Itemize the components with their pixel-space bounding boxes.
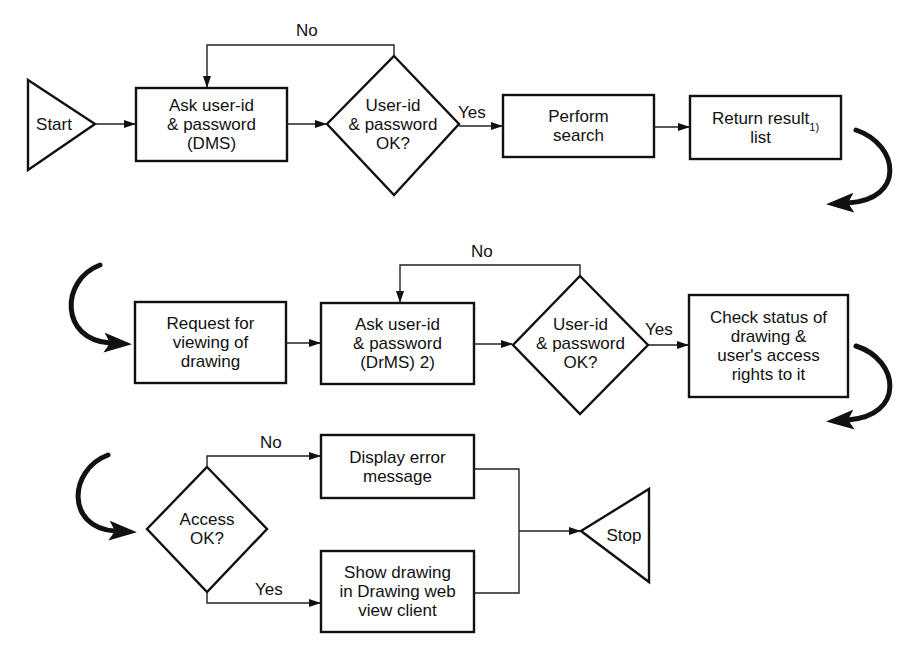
access-ok-label: Access OK?	[147, 508, 267, 550]
check-dms-label: User-id & password OK?	[327, 94, 459, 154]
stop-label: Stop	[600, 524, 648, 546]
check-status-label: Check status of drawing & user's access …	[689, 295, 848, 397]
access-yes-label: Yes	[255, 580, 283, 599]
return-result-label: Return result list1)	[690, 96, 841, 159]
ask-drms-label: Ask user-id & password (DrMS) 2)	[321, 303, 474, 384]
drms-yes-label: Yes	[645, 320, 673, 339]
dms-yes-label: Yes	[458, 103, 486, 122]
connector-access-no	[207, 456, 320, 467]
curved-continue-arrow-row3-in	[78, 455, 115, 531]
connector-drms-no-loop	[400, 265, 580, 302]
check-drms-label: User-id & password OK?	[513, 313, 648, 373]
show-drawing-label: Show drawing in Drawing web view client	[321, 551, 474, 632]
drms-no-label: No	[471, 242, 493, 261]
ask-dms-label: Ask user-id & password (DMS)	[136, 88, 287, 161]
connector-error-to-merge	[474, 469, 519, 593]
curved-continue-arrow-row1	[848, 130, 890, 203]
access-no-label: No	[260, 433, 282, 452]
request-view-label: Request for viewing of drawing	[135, 302, 286, 383]
curved-continue-arrow-row2-out	[848, 346, 890, 420]
curved-continue-arrow-row2-in	[71, 265, 110, 343]
footnote-1-marker: 1)	[809, 118, 819, 137]
dms-no-label: No	[296, 21, 318, 40]
connector-dms-no-loop	[207, 45, 394, 87]
return-result-text: Return result list	[712, 109, 809, 147]
perform-search-label: Perform search	[503, 95, 654, 157]
start-label: Start	[28, 112, 80, 136]
display-error-label: Display error message	[321, 435, 474, 498]
